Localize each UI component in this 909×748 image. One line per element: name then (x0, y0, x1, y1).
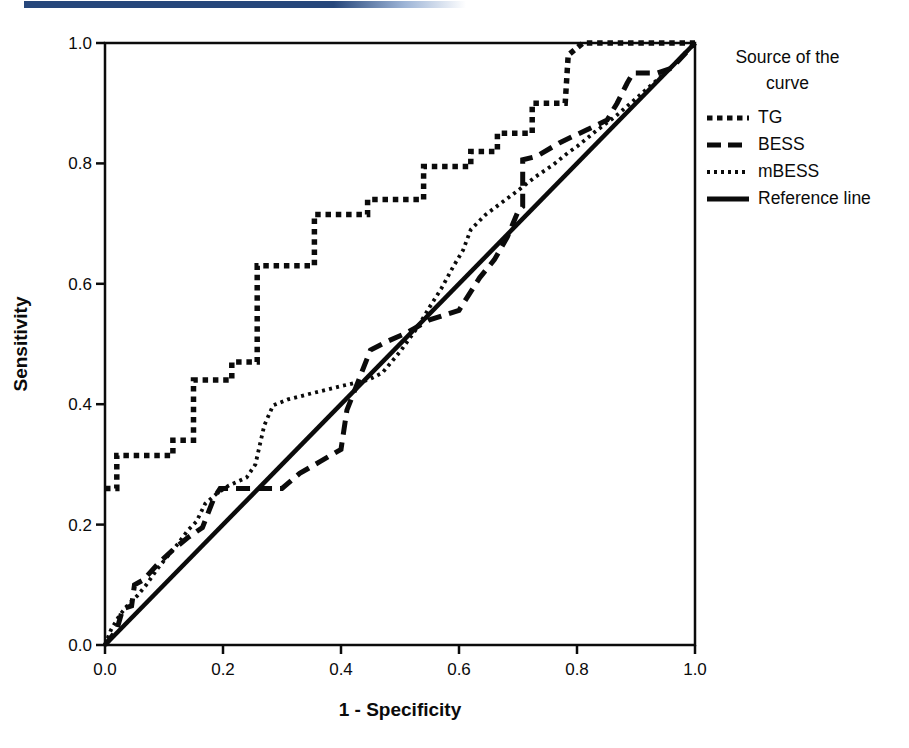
reference-line-sample-icon (705, 193, 749, 205)
x-tick-label: 0.8 (565, 660, 589, 679)
tg-line-sample-icon (705, 112, 749, 124)
y-tick-label: 0.8 (68, 154, 92, 173)
figure-page: 0.00.20.40.60.81.00.00.20.40.60.81.0 Sen… (0, 0, 909, 748)
x-tick-label: 0.4 (329, 660, 353, 679)
x-axis-title: 1 - Specificity (300, 699, 500, 723)
x-tick-label: 1.0 (683, 660, 707, 679)
x-tick-label: 0.2 (211, 660, 235, 679)
legend-label-tg: TG (758, 107, 782, 128)
series-tg (105, 43, 695, 489)
legend-title: Source of the curve (700, 44, 905, 96)
x-tick-label: 0.6 (447, 660, 471, 679)
legend-label-mbess: mBESS (758, 161, 819, 182)
legend-item-bess: BESS (700, 131, 905, 158)
legend-item-tg: TG (700, 104, 905, 131)
legend: Source of the curve TG BESS mBESS Refe (700, 44, 905, 212)
y-tick-label: 0.2 (68, 516, 92, 535)
legend-item-reference: Reference line (700, 185, 905, 212)
mbess-line-sample-icon (705, 166, 749, 178)
series-reference-line (105, 43, 695, 645)
y-tick-label: 0.4 (68, 395, 92, 414)
y-tick-label: 0.0 (68, 636, 92, 655)
legend-title-line2: curve (700, 70, 875, 96)
legend-label-reference: Reference line (758, 188, 871, 209)
bess-line-sample-icon (705, 139, 749, 151)
y-axis-title: Sensitivity (10, 244, 34, 444)
legend-item-mbess: mBESS (700, 158, 905, 185)
legend-title-line1: Source of the (700, 44, 875, 70)
y-tick-label: 0.6 (68, 275, 92, 294)
x-tick-label: 0.0 (93, 660, 117, 679)
y-tick-label: 1.0 (68, 34, 92, 53)
legend-label-bess: BESS (758, 134, 805, 155)
